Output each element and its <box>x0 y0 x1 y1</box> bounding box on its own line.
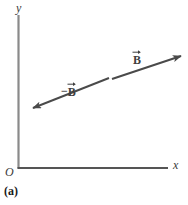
vector-letter-b-neg-text: B <box>68 85 76 99</box>
vector-letter-b-text: B <box>133 53 141 67</box>
vector-label-b-positive: B <box>133 50 141 66</box>
minus-sign: − <box>61 85 68 97</box>
origin-label: O <box>5 166 14 178</box>
vector-letter-b-neg: B <box>68 82 76 98</box>
vector-letter-b: B <box>133 50 141 66</box>
x-axis-label: x <box>173 159 178 171</box>
vector-b-positive-shaft <box>112 56 181 79</box>
vector-figure-panel: y x O B − B (a) <box>0 0 188 205</box>
vector-label-b-negative: − B <box>61 82 76 98</box>
figure-canvas <box>0 0 188 205</box>
panel-caption: (a) <box>4 185 18 197</box>
y-axis-label: y <box>16 2 21 14</box>
